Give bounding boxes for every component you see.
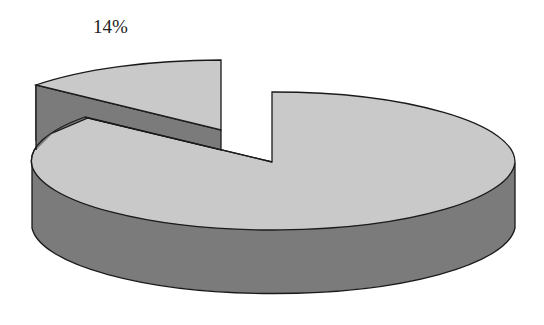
data-label-small-slice: 14% [93,16,128,37]
pie-chart: 14% [0,0,544,325]
pie-chart-svg: 14% [0,0,544,325]
